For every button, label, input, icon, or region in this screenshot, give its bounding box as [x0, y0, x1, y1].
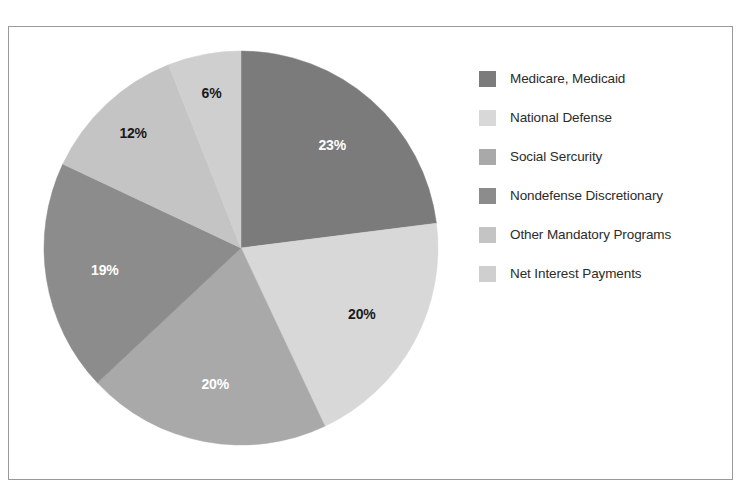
pie-slice-value-label: 20% [201, 376, 229, 392]
clipped-caption [10, 0, 430, 6]
pie-slice-value-label: 6% [202, 85, 223, 101]
legend-color-swatch [479, 188, 496, 204]
figure-frame: 23%20%20%19%12%6% Medicare, MedicaidNati… [8, 26, 733, 480]
pie-slice-value-label: 19% [91, 262, 119, 278]
legend-item[interactable]: Social Sercurity [479, 137, 724, 176]
legend-item-label: Net Interest Payments [510, 266, 641, 281]
legend-color-swatch [479, 266, 496, 282]
legend-item-label: National Defense [510, 110, 612, 125]
legend-color-swatch [479, 71, 496, 87]
pie-slice-value-label: 12% [119, 125, 147, 141]
legend-color-swatch [479, 149, 496, 165]
pie-slices [44, 51, 438, 445]
legend-item[interactable]: Medicare, Medicaid [479, 59, 724, 98]
legend-color-swatch [479, 227, 496, 243]
legend-item-label: Other Mandatory Programs [510, 227, 671, 242]
chart-legend: Medicare, MedicaidNational DefenseSocial… [479, 59, 724, 293]
legend-item-label: Social Sercurity [510, 149, 602, 164]
legend-item[interactable]: Other Mandatory Programs [479, 215, 724, 254]
legend-item-label: Nondefense Discretionary [510, 188, 663, 203]
legend-item[interactable]: Nondefense Discretionary [479, 176, 724, 215]
legend-item[interactable]: National Defense [479, 98, 724, 137]
legend-item-label: Medicare, Medicaid [510, 71, 625, 86]
legend-item[interactable]: Net Interest Payments [479, 254, 724, 293]
pie-chart: 23%20%20%19%12%6% [43, 50, 439, 446]
pie-slice-value-label: 23% [318, 137, 346, 153]
pie-slice-value-label: 20% [348, 306, 376, 322]
legend-color-swatch [479, 110, 496, 126]
pie-svg: 23%20%20%19%12%6% [43, 50, 439, 446]
